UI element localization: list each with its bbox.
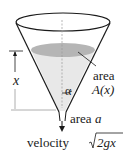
- area-surface-label-line2: A(x): [92, 83, 114, 96]
- spout-right: [65, 112, 66, 121]
- area-hole-label: area a: [70, 112, 101, 125]
- spout-left: [59, 112, 60, 121]
- liquid-surface: [31, 43, 95, 57]
- velocity-label: velocity: [27, 136, 69, 149]
- area-surface-label-line1: area: [93, 69, 115, 82]
- flow-arrowhead: [59, 126, 65, 132]
- funnel-rim: [16, 13, 110, 31]
- velocity-radicand: 2gx: [97, 136, 116, 149]
- angle-label: α: [65, 85, 71, 98]
- liquid-body: [31, 50, 95, 111]
- area-hole-prefix: area: [70, 111, 95, 126]
- height-arrowhead: [13, 51, 17, 56]
- area-hole-var: a: [95, 111, 102, 126]
- height-label: x: [13, 74, 19, 87]
